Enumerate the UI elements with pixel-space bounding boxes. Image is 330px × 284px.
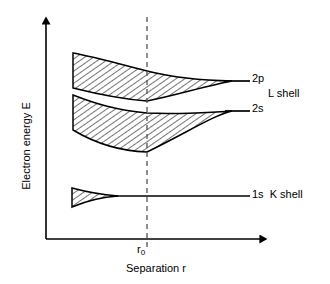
r0-marker-label: r0	[137, 243, 145, 257]
level-label-1s-k-shell: 1s K shell	[252, 188, 303, 200]
r0-subscript: 0	[141, 248, 145, 257]
y-axis-label: Electron energy E	[20, 76, 32, 216]
level-label-2s: 2s	[252, 102, 264, 114]
plot-canvas	[0, 0, 330, 284]
energy-band-diagram: 2p 2s L shell 1s K shell Electron energy…	[0, 0, 330, 284]
shell-label-l: L shell	[268, 87, 299, 99]
level-label-2p: 2p	[252, 72, 264, 84]
x-axis-label: Separation r	[96, 262, 216, 274]
band-1s	[65, 184, 125, 212]
